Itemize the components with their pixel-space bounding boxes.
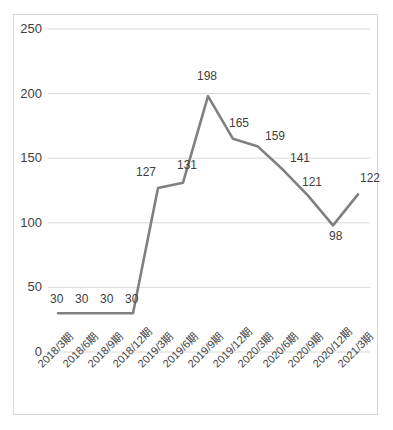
y-axis-tick-label: 200 xyxy=(8,87,42,100)
data-value-label: 122 xyxy=(360,172,380,184)
y-axis-tick-label: 250 xyxy=(8,22,42,35)
data-value-label: 198 xyxy=(197,70,217,82)
data-value-label: 98 xyxy=(329,230,342,242)
data-value-label: 30 xyxy=(125,293,138,305)
data-value-label: 121 xyxy=(302,176,322,188)
data-value-label: 159 xyxy=(265,130,285,142)
data-value-label: 30 xyxy=(100,293,113,305)
chart-title xyxy=(0,0,393,12)
y-axis-tick-label: 100 xyxy=(8,216,42,229)
data-value-label: 30 xyxy=(50,293,63,305)
data-value-label: 141 xyxy=(290,152,310,164)
y-axis-tick-label: 0 xyxy=(8,345,42,358)
data-value-label: 127 xyxy=(136,166,156,178)
y-axis-tick-label: 150 xyxy=(8,151,42,164)
data-value-label: 131 xyxy=(177,159,197,171)
y-axis-tick-label: 50 xyxy=(8,280,42,293)
data-value-label: 30 xyxy=(75,293,88,305)
data-value-label: 165 xyxy=(229,117,249,129)
